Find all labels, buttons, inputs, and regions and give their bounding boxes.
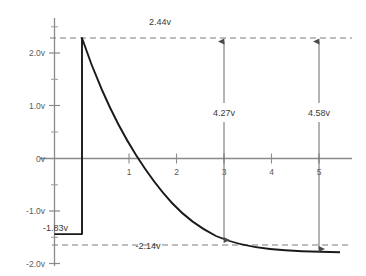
- x-tick-label-2: 2: [174, 167, 179, 177]
- y-tick-label-minus-1.0: -1.0v: [26, 206, 46, 216]
- y-tick-label-minus-2.0: -2.0v: [26, 259, 46, 269]
- span-5-label: 4.58v: [308, 108, 331, 118]
- y-tick-label-0: 0v: [36, 154, 46, 164]
- y-tick-label-2.0: 2.0v: [29, 48, 46, 58]
- span-3-label: 4.27v: [213, 108, 236, 118]
- chart-figure: 2.0v 1.0v 0v -1.0v -2.0v 1 2 3 4 5: [0, 0, 366, 276]
- asymptote-value-label: -2.14v: [135, 241, 161, 251]
- x-tick-label-4: 4: [269, 167, 274, 177]
- initial-value-label: -1.83v: [43, 223, 69, 233]
- y-tick-label-1.0: 1.0v: [29, 101, 46, 111]
- x-tick-label-1: 1: [127, 167, 132, 177]
- voltage-decay-chart: 2.0v 1.0v 0v -1.0v -2.0v 1 2 3 4 5: [0, 0, 366, 276]
- peak-value-label: 2.44v: [149, 17, 172, 27]
